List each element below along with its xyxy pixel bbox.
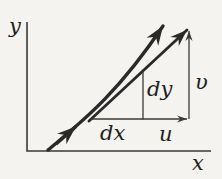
y-axis-label: y xyxy=(8,14,22,38)
v-label: υ xyxy=(195,70,208,94)
trajectory-velocity-figure: y x dx dy u υ xyxy=(0,0,222,179)
x-axis-label: x xyxy=(192,151,204,175)
trajectory-start-arrowhead xyxy=(56,127,76,145)
dy-label: dy xyxy=(147,77,173,101)
diagram-canvas: y x dx dy u υ xyxy=(0,0,222,179)
dx-label: dx xyxy=(100,121,125,145)
u-label: u xyxy=(159,122,173,146)
tangent-velocity-arrow xyxy=(89,30,187,121)
